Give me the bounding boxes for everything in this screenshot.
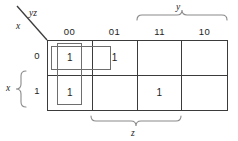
cell-value: 1 bbox=[112, 53, 118, 63]
corner-label-rows: x bbox=[16, 21, 20, 31]
row-header-1: 1 bbox=[31, 85, 43, 96]
column-header-11: 11 bbox=[137, 26, 182, 37]
brace-label-y: y bbox=[176, 2, 180, 12]
brace-y-icon bbox=[137, 10, 227, 20]
brace-label-x: x bbox=[6, 83, 10, 93]
brace-z-icon bbox=[91, 116, 181, 126]
kmap-cell-1-11[interactable]: 1 bbox=[138, 76, 183, 111]
column-header-00: 00 bbox=[47, 26, 92, 37]
kmap-cell-1-01[interactable] bbox=[93, 76, 138, 111]
brace-x-icon bbox=[16, 71, 26, 107]
corner-label-columns: yz bbox=[29, 8, 37, 18]
kmap-cell-1-10[interactable] bbox=[182, 76, 227, 111]
group-rect-vertical bbox=[57, 43, 82, 105]
column-header-01: 01 bbox=[92, 26, 137, 37]
kmap-cell-0-11[interactable] bbox=[138, 41, 183, 76]
kmap-cell-0-10[interactable] bbox=[182, 41, 227, 76]
column-header-10: 10 bbox=[182, 26, 227, 37]
cell-value: 1 bbox=[157, 88, 163, 98]
brace-label-z: z bbox=[131, 128, 135, 138]
karnaugh-map-diagram: yz x 00 01 11 10 0 1 1 1 1 1 bbox=[0, 0, 238, 141]
row-header-0: 0 bbox=[31, 50, 43, 61]
